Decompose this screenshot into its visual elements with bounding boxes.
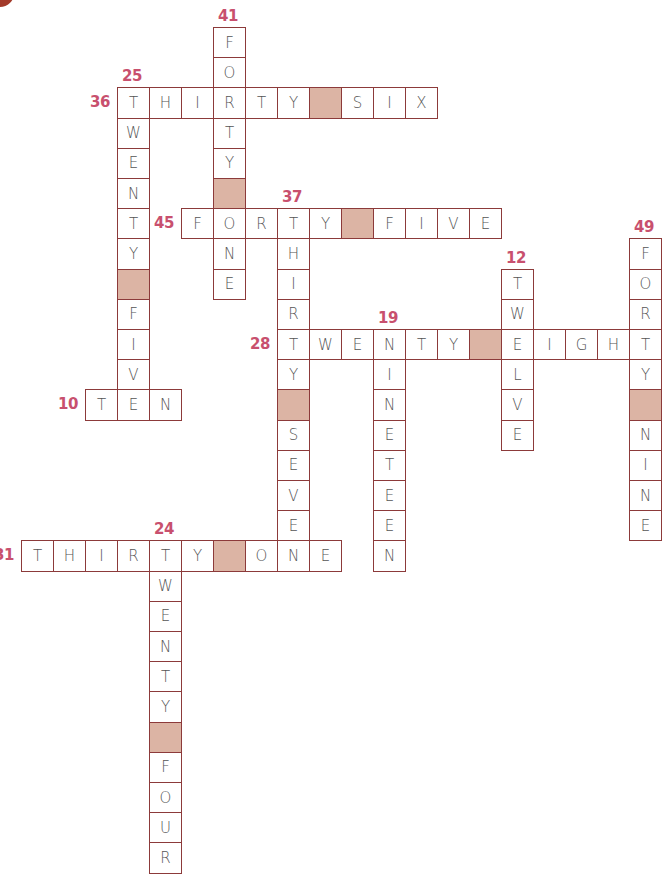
letter-cell[interactable]: I <box>373 359 406 390</box>
letter-cell[interactable]: Y <box>437 329 470 360</box>
letter-cell[interactable]: O <box>213 208 246 239</box>
letter-cell[interactable]: E <box>277 510 310 541</box>
letter-cell[interactable]: F <box>213 27 246 58</box>
letter-cell[interactable]: Y <box>117 238 150 269</box>
letter-cell[interactable]: R <box>117 540 150 571</box>
letter-cell[interactable]: T <box>85 389 118 420</box>
letter-cell[interactable]: E <box>373 420 406 451</box>
letter-cell[interactable]: I <box>629 450 662 481</box>
letter-cell[interactable]: N <box>149 389 182 420</box>
letter-cell[interactable]: I <box>85 540 118 571</box>
letter-cell[interactable]: R <box>245 208 278 239</box>
letter-cell[interactable]: O <box>245 540 278 571</box>
letter-cell[interactable]: T <box>117 208 150 239</box>
letter-cell[interactable]: Y <box>213 148 246 179</box>
letter-cell[interactable]: O <box>149 782 182 813</box>
letter-cell[interactable]: E <box>309 540 342 571</box>
letter-cell[interactable]: V <box>117 359 150 390</box>
letter-cell[interactable]: T <box>405 329 438 360</box>
blank-cell[interactable] <box>629 389 662 420</box>
letter-cell[interactable]: N <box>117 178 150 209</box>
letter-cell[interactable]: H <box>597 329 630 360</box>
blank-cell[interactable] <box>117 269 150 300</box>
letter-cell[interactable]: Y <box>629 359 662 390</box>
letter-cell[interactable]: E <box>213 269 246 300</box>
letter-cell[interactable]: W <box>309 329 342 360</box>
letter-cell[interactable]: H <box>149 87 182 118</box>
letter-cell[interactable]: F <box>629 238 662 269</box>
letter-cell[interactable]: W <box>501 299 534 330</box>
letter-cell[interactable]: V <box>501 389 534 420</box>
blank-cell[interactable] <box>213 178 246 209</box>
letter-cell[interactable]: N <box>277 540 310 571</box>
letter-cell[interactable]: I <box>277 269 310 300</box>
letter-cell[interactable]: T <box>117 87 150 118</box>
letter-cell[interactable]: I <box>373 87 406 118</box>
letter-cell[interactable]: U <box>149 812 182 843</box>
letter-cell[interactable]: E <box>117 389 150 420</box>
letter-cell[interactable]: T <box>277 329 310 360</box>
blank-cell[interactable] <box>213 540 246 571</box>
letter-cell[interactable]: T <box>21 540 54 571</box>
letter-cell[interactable]: E <box>373 480 406 511</box>
letter-cell[interactable]: T <box>501 269 534 300</box>
letter-cell[interactable]: V <box>277 480 310 511</box>
letter-cell[interactable]: N <box>149 631 182 662</box>
blank-cell[interactable] <box>149 722 182 753</box>
letter-cell[interactable]: E <box>501 420 534 451</box>
letter-cell[interactable]: T <box>277 208 310 239</box>
letter-cell[interactable]: I <box>405 208 438 239</box>
letter-cell[interactable]: W <box>149 571 182 602</box>
letter-cell[interactable]: F <box>181 208 214 239</box>
letter-cell[interactable]: Y <box>309 208 342 239</box>
letter-cell[interactable]: T <box>373 450 406 481</box>
letter-cell[interactable]: G <box>565 329 598 360</box>
blank-cell[interactable] <box>341 208 374 239</box>
letter-cell[interactable]: N <box>629 420 662 451</box>
letter-cell[interactable]: T <box>149 540 182 571</box>
letter-cell[interactable]: R <box>277 299 310 330</box>
letter-cell[interactable]: E <box>629 510 662 541</box>
letter-cell[interactable]: E <box>373 510 406 541</box>
letter-cell[interactable]: V <box>437 208 470 239</box>
letter-cell[interactable]: R <box>149 842 182 873</box>
letter-cell[interactable]: H <box>277 238 310 269</box>
letter-cell[interactable]: N <box>213 238 246 269</box>
letter-cell[interactable]: S <box>341 87 374 118</box>
letter-cell[interactable]: O <box>213 57 246 88</box>
letter-cell[interactable]: O <box>629 269 662 300</box>
blank-cell[interactable] <box>277 389 310 420</box>
letter-cell[interactable]: Y <box>277 87 310 118</box>
letter-cell[interactable]: H <box>53 540 86 571</box>
letter-cell[interactable]: E <box>117 148 150 179</box>
letter-cell[interactable]: E <box>501 329 534 360</box>
letter-cell[interactable]: Y <box>181 540 214 571</box>
letter-cell[interactable]: F <box>117 299 150 330</box>
letter-cell[interactable]: T <box>213 118 246 149</box>
letter-cell[interactable]: F <box>373 208 406 239</box>
blank-cell[interactable] <box>469 329 502 360</box>
letter-cell[interactable]: T <box>629 329 662 360</box>
letter-cell[interactable]: T <box>149 661 182 692</box>
letter-cell[interactable]: N <box>373 329 406 360</box>
letter-cell[interactable]: F <box>149 752 182 783</box>
letter-cell[interactable]: E <box>469 208 502 239</box>
letter-cell[interactable]: E <box>277 450 310 481</box>
letter-cell[interactable]: R <box>629 299 662 330</box>
letter-cell[interactable]: N <box>373 389 406 420</box>
letter-cell[interactable]: R <box>213 87 246 118</box>
letter-cell[interactable]: E <box>149 601 182 632</box>
letter-cell[interactable]: E <box>341 329 374 360</box>
letter-cell[interactable]: I <box>117 329 150 360</box>
letter-cell[interactable]: L <box>501 359 534 390</box>
letter-cell[interactable]: W <box>117 118 150 149</box>
letter-cell[interactable]: I <box>181 87 214 118</box>
letter-cell[interactable]: I <box>533 329 566 360</box>
letter-cell[interactable]: Y <box>277 359 310 390</box>
blank-cell[interactable] <box>309 87 342 118</box>
letter-cell[interactable]: S <box>277 420 310 451</box>
letter-cell[interactable]: N <box>373 540 406 571</box>
letter-cell[interactable]: Y <box>149 691 182 722</box>
letter-cell[interactable]: T <box>245 87 278 118</box>
letter-cell[interactable]: N <box>629 480 662 511</box>
